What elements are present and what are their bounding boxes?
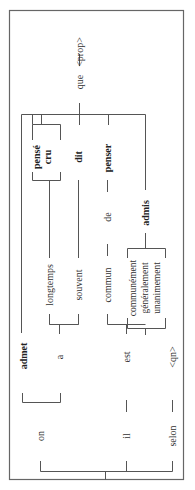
word-longtemps: longtemps [44, 264, 55, 306]
word-generalement: généralement [140, 262, 150, 314]
est-bracket [108, 314, 146, 325]
word-qn: <qn> [167, 346, 178, 368]
word-il: il [121, 433, 132, 439]
word-que: que [74, 74, 85, 89]
on-bracket [23, 393, 61, 403]
word-cru: cru [42, 149, 53, 164]
word-prop: <prop> [74, 37, 85, 67]
word-selon: selon [167, 425, 178, 446]
word-communement: communément [128, 259, 138, 316]
pense-cru-bracket-bottom [33, 172, 61, 181]
adverb-bracket-top [128, 249, 166, 259]
outer-frame [10, 11, 184, 480]
word-admet: admet [18, 342, 29, 369]
bottom-bracket [41, 461, 173, 472]
word-dit: dit [73, 150, 84, 162]
word-unanimement: unanimement [152, 262, 162, 314]
sentence-diagram: <prop> que pensé cru dit penser de admis… [0, 0, 195, 490]
word-on: on [35, 431, 46, 441]
word-souvent: souvent [73, 269, 84, 300]
word-commun: commun [102, 268, 113, 303]
word-de: de [102, 212, 113, 222]
pense-cru-bracket [33, 125, 61, 141]
word-pense: pensé [31, 145, 42, 169]
adverb-bracket-bottom [128, 318, 166, 329]
word-est: est [121, 351, 132, 362]
word-admis: admis [140, 200, 151, 226]
word-a: a [54, 354, 65, 359]
a-bracket [50, 322, 79, 325]
word-penser: penser [102, 143, 113, 172]
